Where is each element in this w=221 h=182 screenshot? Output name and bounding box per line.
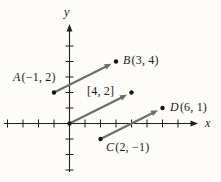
label-point-d-coords: (6, 1)	[180, 100, 207, 114]
x-axis-group	[4, 120, 198, 128]
label-point-c-letter: C	[106, 140, 115, 154]
point-c-dot	[98, 137, 102, 141]
label-point-a: A(−1, 2)	[13, 70, 56, 84]
label-point-c-coords: (2, −1)	[115, 140, 149, 154]
label-x-axis-letter: x	[205, 116, 212, 130]
label-point-d: D(6, 1)	[170, 100, 207, 114]
point-d-dot	[160, 106, 164, 110]
y-axis-group	[66, 24, 74, 172]
label-point-d-letter: D	[170, 100, 180, 114]
point-b-dot	[114, 59, 118, 63]
figure-canvas: A(−1, 2)B(3, 4)[4, 2]C(2, −1)D(6, 1)xy	[0, 0, 221, 182]
x-axis-arrowhead	[191, 121, 199, 127]
vector-cd	[101, 110, 159, 139]
label-component-vector-coords: [4, 2]	[87, 84, 114, 98]
point-42-dot	[129, 90, 133, 94]
vector-origin-42	[70, 95, 128, 124]
label-point-c: C(2, −1)	[106, 140, 149, 154]
label-point-a-coords: (−1, 2)	[22, 70, 56, 84]
label-component-vector: [4, 2]	[87, 84, 114, 98]
label-y-axis-letter: y	[64, 5, 71, 19]
point-a-dot	[52, 90, 56, 94]
origin-dot	[67, 121, 71, 125]
y-axis-arrowhead	[67, 24, 73, 32]
label-point-b-coords: (3, 4)	[132, 53, 159, 67]
label-point-b: B(3, 4)	[123, 53, 159, 67]
label-y-axis: y	[64, 5, 71, 19]
label-point-b-letter: B	[123, 53, 132, 67]
label-x-axis: x	[205, 116, 212, 130]
label-point-a-letter: A	[13, 70, 22, 84]
